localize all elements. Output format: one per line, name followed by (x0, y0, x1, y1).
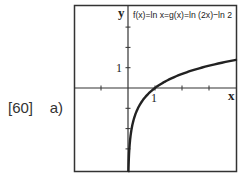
y-axis-label: y (118, 5, 125, 20)
log-function-plot: y x f(x)=ln x=g(x)=ln (2x)−ln 2 1 1 (0, 0, 244, 183)
x-tick-label-1: 1 (151, 91, 157, 105)
y-tick-label-1: 1 (116, 61, 122, 75)
ln-curve (128, 60, 236, 171)
chart-title: f(x)=ln x=g(x)=ln (2x)−ln 2 (133, 9, 232, 20)
x-axis-label: x (228, 88, 235, 103)
